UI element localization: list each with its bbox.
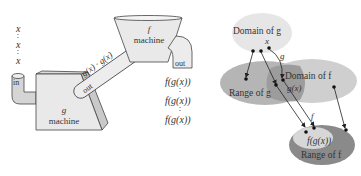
machine-illustration: x x x in g machine out in g(x) · g(x) f …	[12, 16, 192, 131]
domain-g-label: Domain of g	[233, 26, 281, 36]
input-x-2: x	[15, 39, 21, 50]
input-x-3: x	[15, 55, 21, 66]
range-g-label: Range of g	[229, 88, 271, 98]
composition-diagram: x x x in g machine out in g(x) · g(x) f …	[0, 0, 361, 176]
output-1: f(g(x))	[165, 76, 191, 88]
set-diagram: Domain of g x g Domain of f g(x) Range o…	[220, 13, 357, 165]
input-x-1: x	[15, 23, 21, 34]
x-label: x	[264, 36, 269, 46]
domain-f-label: Domain of f	[285, 71, 332, 81]
g-arrow-label: g	[280, 51, 285, 61]
output-2: f(g(x))	[165, 95, 191, 107]
output-3: f(g(x))	[165, 114, 191, 126]
f-arrow-label: f	[311, 111, 315, 121]
g-machine-name: g	[62, 105, 67, 115]
gx-label: g(x)	[287, 83, 302, 93]
g-in-label: in	[13, 78, 19, 87]
g-machine-label: machine	[49, 116, 80, 126]
range-f-label: Range of f	[301, 150, 342, 160]
f-out-label: out	[175, 59, 186, 68]
fgx-label: f(g(x))	[307, 136, 331, 147]
f-machine-label: machine	[134, 35, 165, 45]
